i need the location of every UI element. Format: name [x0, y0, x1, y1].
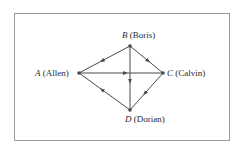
node-label-d: D (Dorian) — [125, 115, 165, 124]
node-a — [77, 71, 81, 75]
node-d — [128, 108, 132, 112]
arrowhead-icon — [145, 90, 148, 94]
node-label-a: A (Allen) — [35, 69, 69, 78]
node-label-c: C (Calvin) — [167, 69, 205, 78]
arrowhead-icon — [102, 90, 107, 94]
arrowhead-icon — [145, 58, 148, 61]
node-b — [128, 44, 132, 48]
node-c — [161, 71, 165, 75]
arrowhead-icon — [102, 58, 107, 61]
graph-nodes — [77, 44, 165, 112]
graph-edges — [79, 46, 163, 110]
node-label-b: B (Boris) — [122, 31, 155, 40]
